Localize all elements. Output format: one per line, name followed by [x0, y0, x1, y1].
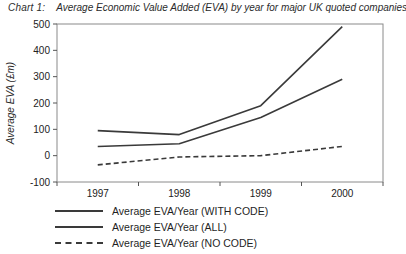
y-axis-label: Average EVA (£m)	[5, 62, 16, 144]
y-tick-label: -100	[30, 177, 50, 188]
x-tick-label: 1997	[87, 188, 110, 199]
y-tick-label: 200	[33, 98, 50, 109]
series-line-solid	[98, 27, 343, 135]
x-tick-label: 2000	[331, 188, 354, 199]
chart-legend: Average EVA/Year (WITH CODE)Average EVA/…	[55, 203, 268, 251]
legend-label: Average EVA/Year (WITH CODE)	[112, 205, 268, 217]
series-line-dashed	[98, 146, 343, 164]
legend-label: Average EVA/Year (NO CODE)	[112, 237, 257, 249]
legend-label: Average EVA/Year (ALL)	[112, 221, 227, 233]
legend-line-sample-dashed	[55, 242, 103, 244]
y-tick-label: 500	[33, 19, 50, 30]
y-tick-label: 400	[33, 45, 50, 56]
series-line-solid	[98, 79, 343, 146]
chart-page: Chart 1:Average Economic Value Added (EV…	[0, 0, 406, 254]
legend-item: Average EVA/Year (WITH CODE)	[55, 203, 268, 218]
y-tick-label: 300	[33, 71, 50, 82]
legend-item: Average EVA/Year (NO CODE)	[55, 235, 268, 250]
y-tick-label: 100	[33, 124, 50, 135]
legend-item: Average EVA/Year (ALL)	[55, 219, 268, 234]
x-tick-label: 1999	[250, 188, 273, 199]
legend-line-sample-solid	[55, 226, 103, 228]
y-tick-label: 0	[44, 150, 50, 161]
plot-area-border	[57, 24, 383, 182]
legend-line-sample-solid	[55, 210, 103, 212]
eva-line-chart: 5004003002001000-1001997199819992000	[0, 0, 406, 200]
x-tick-label: 1998	[168, 188, 191, 199]
